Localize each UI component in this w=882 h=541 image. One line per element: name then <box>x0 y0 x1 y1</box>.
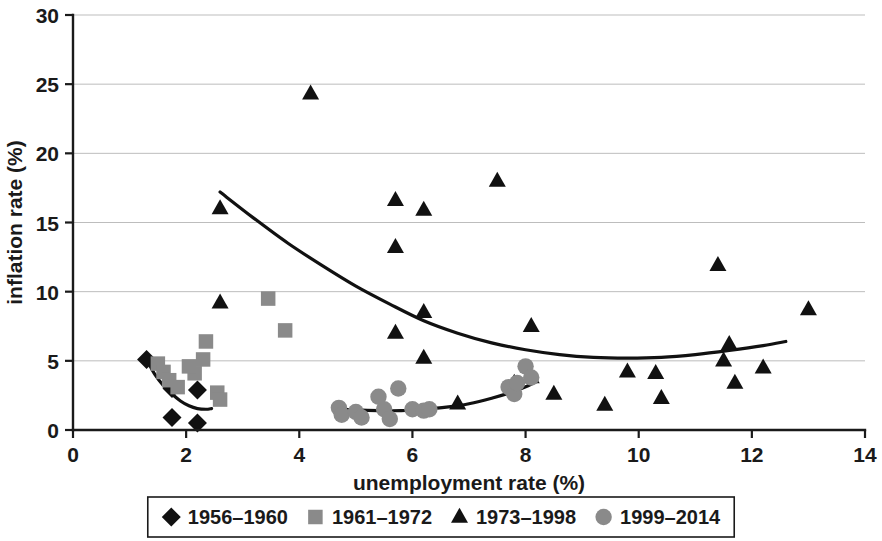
x-tick-label: 10 <box>627 443 650 466</box>
legend-label: 1956–1960 <box>188 506 288 528</box>
x-tick-label: 0 <box>67 443 79 466</box>
data-point-triangle <box>415 201 432 216</box>
y-tick-label: 30 <box>36 4 59 27</box>
axes <box>65 15 865 438</box>
phillips-curve-figure: 02468101214051015202530 unemployment rat… <box>0 0 882 541</box>
data-point-square <box>196 352 211 367</box>
x-tick-label: 6 <box>407 443 419 466</box>
data-point-circle <box>523 369 539 385</box>
trend-line-upper-curve <box>220 192 786 358</box>
data-point-triangle <box>449 394 466 409</box>
data-point-circle <box>390 380 406 396</box>
grid-lines <box>73 15 865 361</box>
series-triangle <box>212 85 817 411</box>
data-point-triangle <box>387 238 404 253</box>
series-square <box>151 291 293 406</box>
data-point-circle <box>334 407 350 423</box>
data-point-triangle <box>545 385 562 400</box>
axis-tick-labels: 02468101214051015202530 <box>36 4 877 466</box>
legend-label: 1973–1998 <box>476 506 576 528</box>
data-point-square <box>170 380 185 395</box>
x-tick-label: 12 <box>740 443 763 466</box>
y-tick-label: 15 <box>36 212 60 235</box>
data-point-triangle <box>653 389 670 404</box>
legend-label: 1961–1972 <box>332 506 432 528</box>
data-point-triangle <box>387 191 404 206</box>
data-point-triangle <box>619 363 636 378</box>
data-point-diamond <box>163 408 182 427</box>
data-point-diamond <box>188 380 207 399</box>
x-tick-label: 8 <box>520 443 532 466</box>
x-axis-title: unemployment rate (%) <box>353 471 585 494</box>
data-point-circle <box>509 375 525 391</box>
x-tick-label: 14 <box>853 443 877 466</box>
axis-titles: unemployment rate (%)inflation rate (%) <box>3 140 585 494</box>
data-point-circle <box>353 409 369 425</box>
data-point-square <box>213 392 228 407</box>
data-point-triangle <box>715 352 732 367</box>
data-point-triangle <box>709 256 726 271</box>
trend-lines <box>147 192 786 411</box>
scatter-chart: 02468101214051015202530 unemployment rat… <box>0 0 882 541</box>
y-axis-title: inflation rate (%) <box>3 140 26 305</box>
data-point-triangle <box>415 349 432 364</box>
data-point-square <box>199 334 214 349</box>
data-points <box>137 85 817 433</box>
y-tick-label: 0 <box>47 419 59 442</box>
y-tick-label: 25 <box>36 73 60 96</box>
data-point-triangle <box>721 335 738 350</box>
legend: 1956–19601961–19721973–19981999–2014 <box>148 497 734 537</box>
x-tick-label: 2 <box>180 443 192 466</box>
data-point-triangle <box>415 303 432 318</box>
data-point-triangle <box>302 85 319 100</box>
legend-marker-circle <box>595 509 611 525</box>
data-point-circle <box>421 401 437 417</box>
data-point-square <box>278 323 293 338</box>
data-point-circle <box>382 411 398 427</box>
y-tick-label: 20 <box>36 142 59 165</box>
legend-marker-square <box>308 510 323 525</box>
data-point-triangle <box>726 374 743 389</box>
data-point-square <box>182 359 197 374</box>
series-circle <box>331 358 540 427</box>
y-tick-label: 10 <box>36 281 59 304</box>
data-point-triangle <box>523 317 540 332</box>
y-tick-label: 5 <box>47 350 59 373</box>
legend-label: 1999–2014 <box>620 506 721 528</box>
x-tick-label: 4 <box>293 443 305 466</box>
data-point-triangle <box>800 300 817 315</box>
data-point-triangle <box>596 396 613 411</box>
data-point-triangle <box>212 293 229 308</box>
data-point-triangle <box>212 199 229 214</box>
data-point-triangle <box>647 364 664 379</box>
data-point-triangle <box>489 172 506 187</box>
data-point-square <box>261 291 276 306</box>
data-point-triangle <box>387 324 404 339</box>
